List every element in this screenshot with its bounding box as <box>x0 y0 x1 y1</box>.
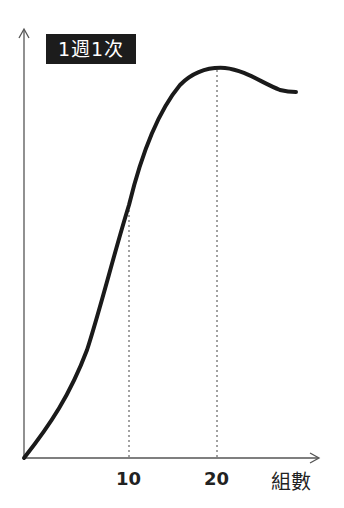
x-tick-20: 20 <box>204 468 229 489</box>
x-axis-label: 組數 <box>271 466 311 495</box>
x-tick-10: 10 <box>116 468 141 489</box>
data-curve <box>24 68 296 458</box>
series-title-box: 1週1次 <box>46 34 136 64</box>
chart-canvas <box>0 0 344 508</box>
